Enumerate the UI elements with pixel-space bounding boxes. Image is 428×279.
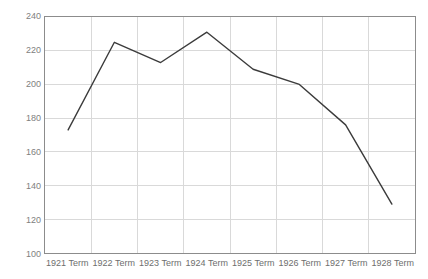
x-axis: 1921 Term1922 Term1923 Term1924 Term1925… (44, 258, 416, 274)
y-axis-tick-label: 200 (1, 80, 41, 89)
x-axis-tick-label: 1928 Term (358, 258, 428, 269)
data-line-series (45, 17, 415, 253)
chart-container: 100120140160180200220240 1921 Term1922 T… (0, 0, 428, 279)
y-axis: 100120140160180200220240 (0, 16, 41, 254)
y-axis-tick-label: 120 (1, 216, 41, 225)
y-axis-tick-label: 220 (1, 46, 41, 55)
y-axis-tick-label: 160 (1, 148, 41, 157)
y-axis-tick-label: 140 (1, 182, 41, 191)
chart-title-clipped (0, 0, 428, 7)
plot-area (44, 16, 416, 254)
y-axis-tick-label: 180 (1, 114, 41, 123)
data-line (68, 32, 392, 204)
y-axis-tick-label: 240 (1, 12, 41, 21)
